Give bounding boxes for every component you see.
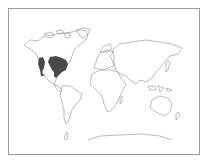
madagascar [120, 96, 122, 104]
range-east [48, 56, 68, 78]
new-zealand [176, 112, 180, 120]
asia [112, 40, 182, 84]
range-west [38, 57, 45, 76]
africa [90, 70, 126, 112]
australia [150, 96, 172, 116]
antarctic-peninsula [64, 132, 68, 140]
southeast-asia-islands [148, 86, 172, 92]
antarctica [88, 134, 172, 140]
europe [94, 50, 114, 70]
world-map [0, 0, 209, 162]
japan [166, 60, 170, 72]
south-america [60, 86, 82, 124]
